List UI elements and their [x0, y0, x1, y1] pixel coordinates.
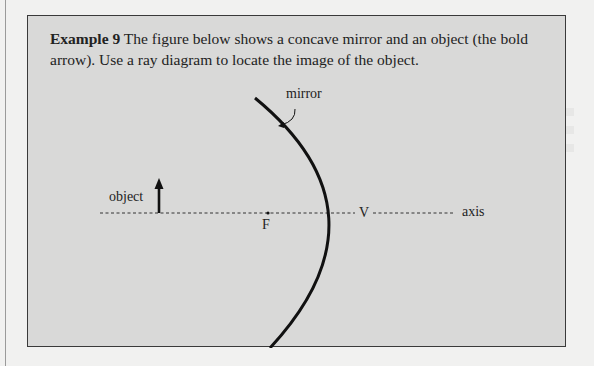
axis-label: axis — [462, 204, 485, 220]
page-edge — [5, 0, 6, 366]
ray-diagram — [28, 16, 567, 348]
example-box: Example 9 The figure below shows a conca… — [27, 15, 566, 347]
focal-point-label: F — [262, 217, 270, 233]
mirror-label: mirror — [286, 86, 322, 102]
object-label: object — [109, 189, 143, 205]
vertex-label: V — [359, 205, 369, 221]
object-arrow-icon — [155, 178, 164, 189]
focal-point-dot — [266, 211, 269, 214]
